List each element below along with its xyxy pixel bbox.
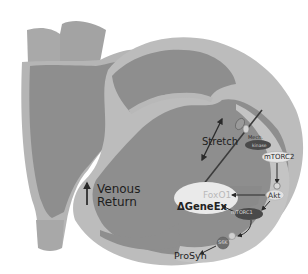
venous-return-label: Venous Return bbox=[97, 183, 140, 209]
gene-expression-label: ΔGeneEx bbox=[177, 202, 227, 212]
venous-return-line2: Return bbox=[97, 195, 137, 209]
foxo1-label: FoxO1 bbox=[203, 191, 231, 200]
mechano-kinase-label: Mech. bbox=[248, 135, 263, 140]
mtorc1-label: mTORC1 bbox=[231, 210, 253, 215]
stretch-label: Stretch bbox=[202, 137, 238, 147]
venous-return-line1: Venous bbox=[97, 182, 140, 196]
s6k-label: S6K bbox=[218, 240, 228, 245]
phospho-s6k-icon bbox=[229, 233, 236, 240]
heart-diagram: Stretch Venous Return ProSyn ΔGeneEx Fox… bbox=[0, 0, 308, 274]
akt-label: Akt bbox=[268, 192, 280, 200]
phospho-akt-icon bbox=[274, 183, 280, 189]
great-vessels bbox=[27, 21, 106, 64]
mechano-kinase-sublabel: kinase bbox=[252, 144, 267, 149]
protein-synthesis-label: ProSyn bbox=[174, 251, 207, 261]
mtorc2-label: mTORC2 bbox=[264, 154, 294, 161]
